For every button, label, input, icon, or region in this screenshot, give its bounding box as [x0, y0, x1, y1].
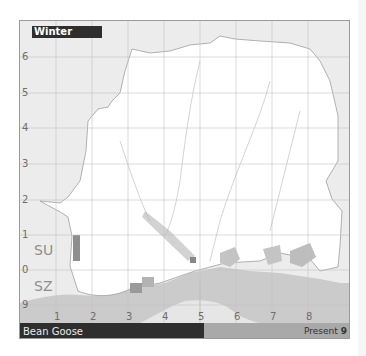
x-axis-label: 1: [54, 312, 60, 322]
grid-square-label-sz: SZ: [34, 279, 52, 293]
x-axis-label: 6: [234, 312, 240, 322]
x-axis-label: 5: [198, 312, 204, 322]
record-cell: [73, 235, 80, 261]
record-cell: [130, 283, 142, 293]
y-axis-label: 2: [22, 195, 28, 205]
record-cell: [142, 277, 154, 287]
x-axis-label: 4: [162, 312, 168, 322]
scrollbar[interactable]: [358, 0, 366, 356]
status-label: Present: [304, 326, 338, 336]
y-axis-label: 4: [22, 123, 28, 133]
season-label: Winter: [32, 26, 102, 38]
record-cell: [190, 257, 196, 263]
x-axis-label: 2: [90, 312, 96, 322]
y-axis-label: 6: [22, 52, 28, 62]
y-axis-label: 0: [22, 265, 28, 275]
x-axis-label: 7: [270, 312, 276, 322]
status-count: 9: [341, 326, 347, 336]
y-axis-label: 9: [22, 300, 28, 310]
species-name: Bean Goose: [20, 323, 204, 339]
y-axis-label: 3: [22, 159, 28, 169]
grid-square-label-su: SU: [34, 243, 53, 257]
status-bar: Present9: [204, 323, 350, 339]
map-canvas: [20, 21, 350, 339]
distribution-map: Winter 6 5 4 3 2 1 0 9 SU SZ 1 2 3 4 5 6…: [19, 20, 350, 339]
y-axis-label: 5: [22, 88, 28, 98]
x-axis-label: 3: [126, 312, 132, 322]
y-axis-label: 1: [22, 230, 28, 240]
x-axis-label: 8: [306, 312, 312, 322]
